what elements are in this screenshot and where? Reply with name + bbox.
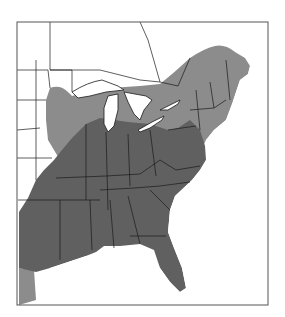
- range-map: [0, 0, 285, 317]
- range-peripheral-south-texas: [19, 268, 36, 305]
